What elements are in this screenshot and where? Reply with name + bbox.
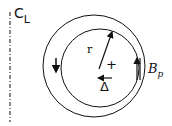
inner-circle	[61, 29, 139, 107]
field-label: Bp	[148, 62, 163, 79]
centerline-label: CL	[14, 6, 30, 25]
plus-label: +	[106, 58, 117, 71]
outer-circle	[43, 15, 145, 117]
shift-label: Δ	[100, 80, 109, 93]
radius-label: r	[87, 44, 92, 55]
